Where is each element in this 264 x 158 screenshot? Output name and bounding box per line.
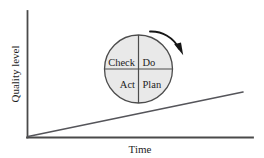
pdca-quadrant-act: Act (120, 79, 135, 90)
pdca-quality-figure: Check Do Act Plan Quality level Time (0, 0, 264, 158)
pdca-quadrant-plan: Plan (143, 79, 162, 90)
pdca-wheel: Check Do Act Plan (105, 35, 173, 103)
figure-canvas: Check Do Act Plan Quality level Time (0, 0, 264, 158)
pdca-quadrant-do: Do (143, 57, 156, 68)
pdca-quadrant-check: Check (108, 57, 136, 68)
rotation-arrow-head (174, 43, 183, 56)
y-axis-label: Quality level (9, 45, 21, 102)
x-axis-label: Time (129, 143, 152, 155)
